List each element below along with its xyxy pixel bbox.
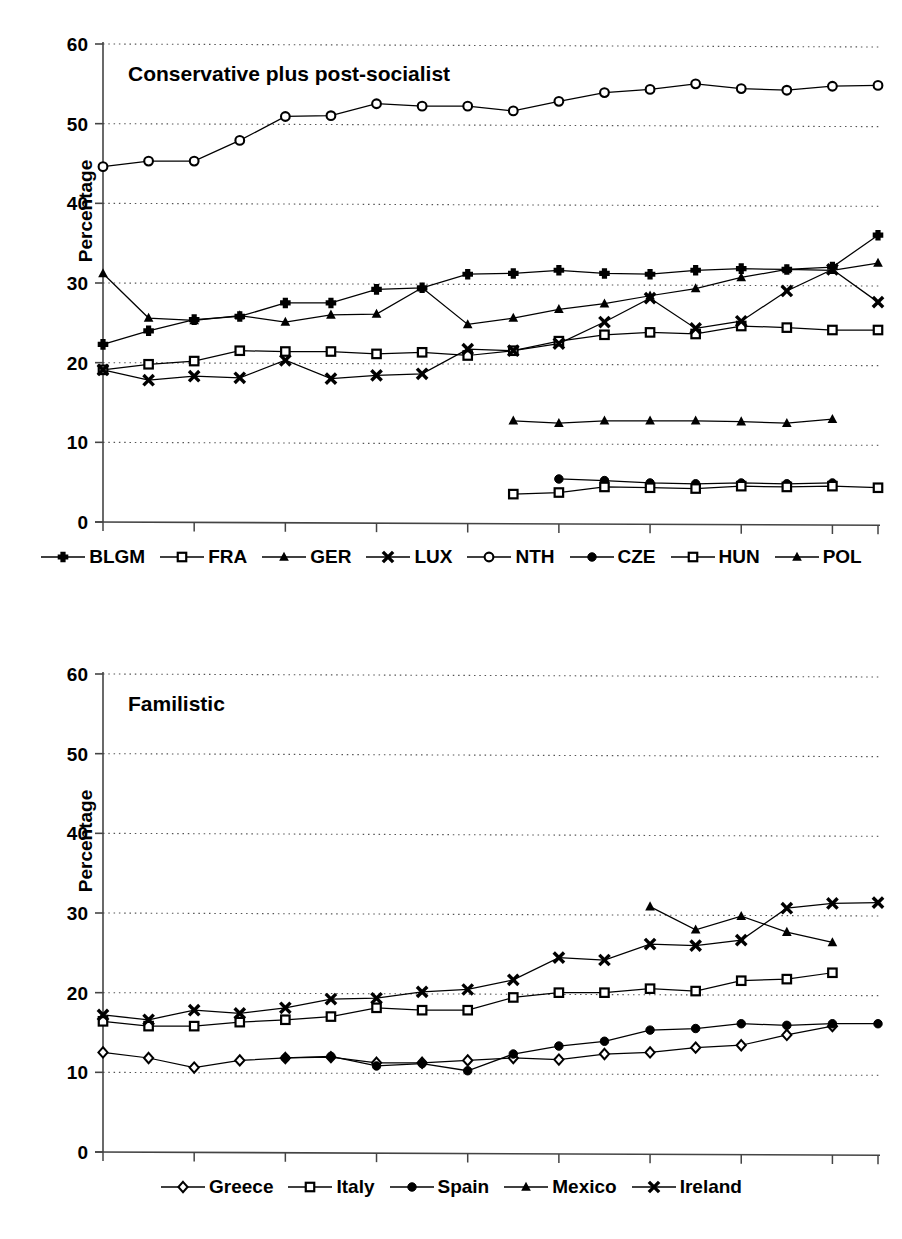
data-point-open-diamond — [600, 1049, 609, 1059]
data-point-open-square — [737, 482, 745, 490]
gridline-y-10 — [103, 1072, 880, 1075]
gridline-y-50 — [103, 754, 880, 757]
y-tick-label-40: 40 — [67, 193, 88, 214]
data-point-open-diamond — [554, 1054, 563, 1064]
data-point-plus — [554, 265, 565, 276]
legend-marker-x-icon — [365, 546, 411, 568]
data-point-plus — [690, 265, 701, 276]
data-point-plus — [280, 298, 291, 309]
legend-item-ireland[interactable]: Ireland — [631, 1176, 742, 1198]
data-point-open-circle — [190, 157, 199, 166]
data-point-filled-triangle — [600, 416, 610, 425]
data-point-open-square — [509, 490, 517, 498]
data-point-open-diamond — [782, 1030, 791, 1040]
legend-label-fra: FRA — [208, 546, 247, 568]
data-point-filled-circle — [587, 553, 595, 561]
y-tick-label-10: 10 — [67, 432, 88, 453]
data-point-open-square — [327, 347, 335, 355]
legend-item-spain[interactable]: Spain — [389, 1176, 490, 1198]
legend-item-mexico[interactable]: Mexico — [503, 1176, 616, 1198]
legend-item-fra[interactable]: FRA — [159, 546, 247, 568]
data-point-x — [873, 297, 883, 307]
data-point-open-circle — [555, 97, 564, 106]
data-point-filled-triangle — [645, 901, 655, 910]
data-point-filled-triangle — [691, 416, 701, 425]
legend-marker-filled-triangle-icon — [774, 546, 820, 568]
data-point-filled-circle — [555, 475, 563, 483]
series-line-blgm — [103, 235, 878, 344]
data-point-open-square — [828, 326, 836, 334]
data-point-open-square — [646, 984, 654, 992]
legend-item-greece[interactable]: Greece — [160, 1176, 273, 1198]
data-point-open-square — [828, 969, 836, 977]
series-line-ger — [103, 263, 878, 324]
series-markers-spain — [281, 1020, 882, 1075]
data-point-open-square — [190, 357, 198, 365]
gridline-y-20 — [103, 363, 880, 366]
data-point-open-diamond — [190, 1062, 199, 1072]
data-point-plus — [98, 339, 109, 350]
data-point-open-square — [178, 553, 186, 561]
data-point-filled-circle — [646, 1026, 654, 1034]
data-point-plus — [873, 230, 884, 241]
data-point-open-circle — [509, 107, 518, 116]
data-point-filled-triangle — [508, 416, 518, 425]
legend-label-ger: GER — [310, 546, 351, 568]
data-point-filled-circle — [407, 1183, 415, 1191]
legend-marker-open-square-icon — [287, 1176, 333, 1198]
chart-familistic: Percentage Familistic 010203040506019831… — [0, 640, 902, 1239]
data-point-x — [599, 317, 609, 327]
chart-legend-bottom: GreeceItalySpainMexicoIreland — [0, 1170, 902, 1204]
legend-item-ger[interactable]: GER — [261, 546, 351, 568]
legend-item-blgm[interactable]: BLGM — [40, 546, 145, 568]
legend-item-lux[interactable]: LUX — [365, 546, 452, 568]
legend-marker-filled-circle-icon — [569, 546, 615, 568]
series-markers-blgm — [98, 230, 884, 350]
data-point-open-diamond — [463, 1055, 472, 1065]
data-point-open-square — [236, 346, 244, 354]
gridline-y-30 — [103, 913, 880, 916]
chart-legend-top: BLGMFRAGERLUXNTHCZEHUNPOL — [0, 540, 902, 574]
y-tick-label-50: 50 — [67, 744, 88, 765]
y-tick-label-60: 60 — [67, 664, 88, 685]
series-line-italy — [103, 973, 832, 1026]
legend-item-italy[interactable]: Italy — [287, 1176, 374, 1198]
data-point-filled-circle — [281, 1054, 289, 1062]
legend-item-pol[interactable]: POL — [774, 546, 862, 568]
plot-area-top: Percentage Conservative plus post-social… — [0, 10, 902, 540]
series-ger — [103, 263, 878, 324]
y-tick-label-30: 30 — [67, 273, 88, 294]
data-point-open-square — [874, 326, 882, 334]
legend-marker-x-icon — [631, 1176, 677, 1198]
data-point-filled-circle — [509, 1050, 517, 1058]
series-line-fra — [103, 326, 878, 370]
series-line-ireland — [103, 903, 878, 1020]
legend-item-nth[interactable]: NTH — [466, 546, 554, 568]
data-point-open-square — [555, 988, 563, 996]
y-tick-label-10: 10 — [67, 1062, 88, 1083]
series-line-lux — [103, 269, 878, 380]
chart-canvas-bottom: 0102030405060198319851987198919911993199… — [0, 640, 902, 1170]
data-point-plus — [462, 269, 473, 280]
data-point-open-square — [691, 987, 699, 995]
data-point-open-square — [418, 1006, 426, 1014]
legend-label-mexico: Mexico — [552, 1176, 616, 1198]
legend-item-hun[interactable]: HUN — [670, 546, 760, 568]
legend-label-spain: Spain — [438, 1176, 490, 1198]
legend-item-cze[interactable]: CZE — [569, 546, 656, 568]
gridline-y-40 — [103, 833, 880, 836]
data-point-open-circle — [281, 112, 290, 121]
gridline-y-50 — [103, 124, 880, 127]
data-point-open-square — [327, 1012, 335, 1020]
y-tick-label-20: 20 — [67, 983, 88, 1004]
y-tick-label-30: 30 — [67, 903, 88, 924]
data-point-filled-circle — [691, 1024, 699, 1032]
x-axis-line — [95, 1152, 880, 1155]
data-point-open-square — [600, 331, 608, 339]
data-point-filled-circle — [737, 1020, 745, 1028]
gridline-y-60 — [103, 674, 880, 677]
data-point-plus — [508, 268, 519, 279]
data-point-filled-circle — [418, 1059, 426, 1067]
data-point-open-square — [600, 483, 608, 491]
data-point-open-circle — [235, 136, 244, 145]
